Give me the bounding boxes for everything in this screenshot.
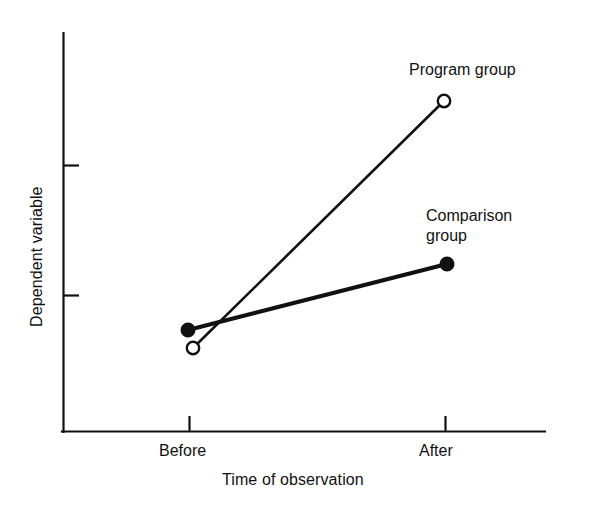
data-point-comparison-before bbox=[182, 324, 195, 337]
data-point-program-before bbox=[187, 342, 199, 354]
x-tick-label-before: Before bbox=[159, 441, 206, 461]
series-line-comparison-group bbox=[188, 264, 447, 330]
x-axis-label: Time of observation bbox=[222, 470, 364, 490]
y-axis-label: Dependent variable bbox=[27, 77, 47, 327]
series-annotation-comparison-group: Comparisongroup bbox=[426, 206, 512, 245]
line-chart-figure: Dependent variable Time of observation B… bbox=[0, 0, 602, 517]
series-annotation-program-group: Program group bbox=[409, 60, 516, 80]
data-point-comparison-after bbox=[441, 258, 454, 271]
series-annotation-comparison-line1: Comparison bbox=[426, 207, 512, 224]
series-annotation-comparison-line2: group bbox=[426, 227, 467, 244]
series-line-program-group bbox=[193, 101, 444, 348]
data-point-program-after bbox=[438, 95, 450, 107]
x-tick-label-after: After bbox=[419, 441, 453, 461]
